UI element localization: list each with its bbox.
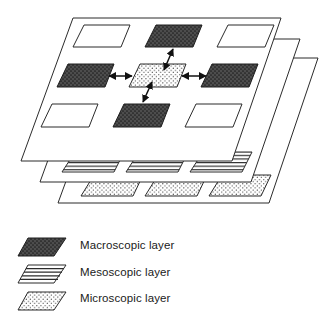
macroscopic-row-top: [73, 25, 274, 47]
macroscopic-row-middle: [57, 64, 258, 87]
legend-label-mesoscopic: Mesoscopic layer: [80, 266, 170, 278]
mesoscopic-swatch: [18, 265, 66, 283]
microscopic-swatch: [18, 292, 66, 310]
macroscopic-row-bottom: [41, 104, 242, 127]
legend-label-microscopic: Microscopic layer: [80, 292, 171, 304]
layered-architecture-diagram: [0, 0, 329, 330]
legend-label-macroscopic: Macroscopic layer: [80, 239, 174, 251]
macroscopic-swatch: [18, 238, 66, 256]
legend: [18, 238, 66, 310]
